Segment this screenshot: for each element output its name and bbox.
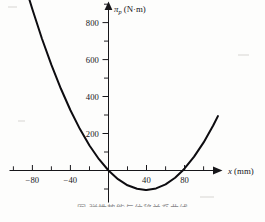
x-tick-label-neg40: −40: [64, 175, 78, 185]
figure-container: −80 −40 40 80 200 400 600 800 πp (N·m) x…: [0, 0, 265, 222]
y-tick-label-400: 400: [86, 92, 99, 102]
y-tick-label-200: 200: [86, 129, 99, 139]
y-axis-arrow-icon: [105, 2, 113, 11]
figure-caption: 图 弹性势能与位移关系曲线: [0, 202, 265, 215]
plot-area: −80 −40 40 80 200 400 600 800 πp (N·m) x…: [0, 0, 265, 222]
y-tick-label-600: 600: [86, 55, 99, 65]
x-tick-label-40: 40: [142, 175, 151, 185]
x-tick-label-neg80: −80: [26, 175, 40, 185]
figure-caption-band: 图 弹性势能与位移关系曲线: [0, 198, 265, 222]
x-axis-title: x (mm): [227, 166, 254, 176]
parabola-curve: [28, 0, 218, 190]
x-tick-label-80: 80: [180, 175, 189, 185]
x-axis-arrow-icon: [213, 167, 223, 175]
y-tick-label-800: 800: [86, 18, 99, 28]
y-axis-title: πp (N·m): [114, 4, 146, 15]
